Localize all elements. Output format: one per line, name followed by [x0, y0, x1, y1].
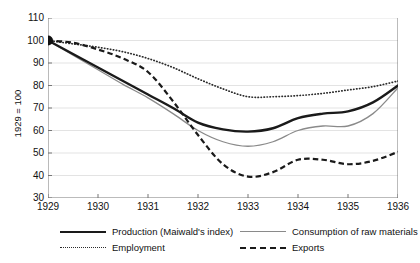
y-tick-label: 50 [18, 148, 44, 158]
x-tick-label: 1936 [378, 201, 418, 213]
y-tick-label: 80 [18, 81, 44, 91]
legend-label: Exports [292, 242, 324, 253]
series-line [48, 41, 398, 177]
legend-item-employment: Employment [60, 240, 165, 255]
plot-area [48, 18, 398, 198]
legend-label: Production (Maiwald's index) [112, 226, 233, 237]
chart-figure: 1929 = 100 30405060708090100110 19291930… [0, 0, 420, 263]
x-tick-label: 1930 [78, 201, 118, 213]
line-swatch-icon [60, 226, 106, 237]
x-tick-label: 1931 [128, 201, 168, 213]
chart-canvas [48, 18, 398, 198]
x-tick-label: 1934 [278, 201, 318, 213]
x-axis-tick-labels: 19291930193119321933193419351936 [48, 201, 398, 215]
y-tick-label: 70 [18, 103, 44, 113]
x-tick-label: 1935 [328, 201, 368, 213]
dashed-line-swatch-icon [240, 242, 286, 253]
chart-legend: Production (Maiwald's index) Consumption… [48, 224, 420, 260]
y-axis-tick-labels: 30405060708090100110 [14, 0, 44, 263]
line-swatch-icon [240, 226, 286, 237]
y-tick-label: 90 [18, 58, 44, 68]
series-line [48, 41, 398, 132]
y-tick-label: 100 [18, 36, 44, 46]
x-tick-label: 1929 [28, 201, 68, 213]
y-tick-label: 60 [18, 126, 44, 136]
legend-label: Employment [112, 242, 165, 253]
legend-label: Consumption of raw materials [292, 226, 418, 237]
legend-item-production: Production (Maiwald's index) [60, 224, 233, 239]
legend-item-exports: Exports [240, 240, 324, 255]
dotted-line-swatch-icon [60, 242, 106, 253]
y-tick-label: 110 [18, 13, 44, 23]
legend-item-consumption: Consumption of raw materials [240, 224, 418, 239]
x-tick-label: 1932 [178, 201, 218, 213]
x-tick-label: 1933 [228, 201, 268, 213]
y-tick-label: 40 [18, 171, 44, 181]
